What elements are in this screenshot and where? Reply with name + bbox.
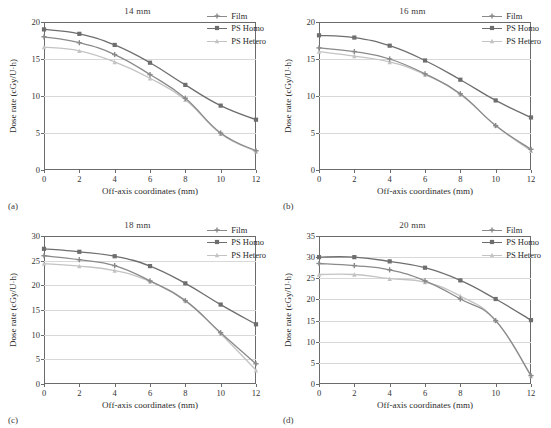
legend-swatch-icon bbox=[482, 12, 502, 21]
data-point-ps-homo bbox=[388, 259, 392, 263]
legend: FilmPS HomoPS Hetero bbox=[479, 222, 544, 263]
y-tick-label: 0 bbox=[36, 379, 40, 389]
panel-caption-label: (d) bbox=[283, 415, 294, 425]
data-point-ps-homo bbox=[388, 44, 392, 48]
x-tick-mark bbox=[256, 384, 257, 387]
legend: FilmPS HomoPS Hetero bbox=[479, 8, 544, 49]
y-tick-label: 10 bbox=[307, 91, 316, 101]
x-tick-mark bbox=[460, 384, 461, 387]
legend-item-film: Film bbox=[207, 10, 266, 22]
data-point-film bbox=[352, 263, 357, 268]
legend-item-ps-homo: PS Homo bbox=[207, 236, 266, 248]
x-tick-mark bbox=[531, 384, 532, 387]
x-tick-label: 8 bbox=[458, 388, 462, 398]
panel-20-mm: 20 mm(d)Dose rate (cGy/U·h)Off-axis coor… bbox=[275, 214, 550, 428]
legend-swatch-icon bbox=[207, 36, 227, 45]
legend-swatch-icon bbox=[207, 238, 227, 247]
legend-swatch-icon bbox=[207, 226, 227, 235]
x-tick-label: 12 bbox=[527, 388, 536, 398]
data-point-ps-homo bbox=[458, 278, 462, 282]
data-point-ps-homo bbox=[529, 318, 533, 322]
x-axis-label: Off-axis coordinates (mm) bbox=[319, 186, 531, 196]
legend-swatch-icon bbox=[482, 250, 502, 259]
legend-marker-icon bbox=[213, 226, 222, 235]
x-tick-label: 6 bbox=[423, 388, 427, 398]
legend-marker-icon bbox=[488, 226, 497, 235]
legend-label: PS Hetero bbox=[506, 249, 541, 261]
x-tick-mark bbox=[44, 384, 45, 387]
x-tick-mark bbox=[115, 170, 116, 173]
legend-swatch-icon bbox=[482, 36, 502, 45]
data-point-film bbox=[41, 253, 46, 258]
legend-item-ps-hetero: PS Hetero bbox=[482, 249, 541, 261]
y-tick-label: 5 bbox=[36, 128, 40, 138]
data-point-ps-homo bbox=[423, 58, 427, 62]
y-tick-label: 0 bbox=[36, 165, 40, 175]
data-point-film bbox=[387, 56, 392, 61]
x-tick-mark bbox=[79, 384, 80, 387]
data-point-ps-homo bbox=[219, 302, 223, 306]
y-tick-label: 0 bbox=[311, 379, 315, 389]
figure-dose-rate-panels: 14 mm(a)Dose rate (cGy/U·h)Off-axis coor… bbox=[0, 0, 551, 428]
x-tick-mark bbox=[354, 384, 355, 387]
x-tick-mark bbox=[185, 170, 186, 173]
y-tick-label: 0 bbox=[311, 165, 315, 175]
x-axis-label: Off-axis coordinates (mm) bbox=[319, 400, 531, 410]
legend-item-ps-homo: PS Homo bbox=[482, 236, 541, 248]
panel-caption-label: (c) bbox=[8, 415, 18, 425]
data-point-ps-homo bbox=[219, 104, 223, 108]
x-tick-mark bbox=[221, 384, 222, 387]
x-tick-mark bbox=[319, 384, 320, 387]
legend-marker-icon bbox=[488, 12, 497, 21]
legend-marker-icon bbox=[213, 36, 222, 45]
x-tick-label: 10 bbox=[216, 174, 225, 184]
legend-item-ps-hetero: PS Hetero bbox=[482, 35, 541, 47]
y-tick-label: 10 bbox=[307, 337, 316, 347]
legend: FilmPS HomoPS Hetero bbox=[204, 222, 269, 263]
x-tick-label: 6 bbox=[148, 388, 152, 398]
x-tick-label: 4 bbox=[388, 174, 392, 184]
x-tick-label: 12 bbox=[527, 174, 536, 184]
data-point-film bbox=[112, 52, 117, 57]
legend-swatch-icon bbox=[207, 250, 227, 259]
y-axis-label: Dose rate (cGy/U·h) bbox=[6, 22, 20, 170]
data-point-film bbox=[316, 45, 321, 50]
legend-label: Film bbox=[506, 10, 522, 22]
legend-label: PS Hetero bbox=[231, 35, 266, 47]
data-point-ps-homo bbox=[317, 255, 321, 259]
y-tick-label: 20 bbox=[307, 294, 316, 304]
x-tick-label: 8 bbox=[458, 174, 462, 184]
legend-item-ps-hetero: PS Hetero bbox=[207, 249, 266, 261]
panel-16-mm: 16 mm(b)Dose rate (cGy/U·h)Off-axis coor… bbox=[275, 0, 550, 214]
y-tick-label: 30 bbox=[307, 252, 316, 262]
legend-item-film: Film bbox=[482, 10, 541, 22]
data-point-ps-homo bbox=[77, 250, 81, 254]
y-tick-label: 15 bbox=[32, 305, 41, 315]
x-axis-label: Off-axis coordinates (mm) bbox=[44, 400, 256, 410]
x-tick-mark bbox=[150, 384, 151, 387]
y-tick-label: 30 bbox=[32, 231, 41, 241]
legend-swatch-icon bbox=[207, 24, 227, 33]
data-point-ps-homo bbox=[42, 27, 46, 31]
data-point-film bbox=[77, 257, 82, 262]
data-point-film bbox=[253, 148, 258, 153]
legend-item-film: Film bbox=[482, 224, 541, 236]
x-tick-label: 12 bbox=[252, 174, 261, 184]
legend-item-ps-hetero: PS Hetero bbox=[207, 35, 266, 47]
y-tick-label: 5 bbox=[311, 128, 315, 138]
x-tick-label: 0 bbox=[317, 388, 321, 398]
data-point-ps-homo bbox=[494, 98, 498, 102]
data-point-ps-homo bbox=[352, 255, 356, 259]
x-tick-label: 0 bbox=[317, 174, 321, 184]
x-tick-mark bbox=[390, 384, 391, 387]
y-axis-label: Dose rate (cGy/U·h) bbox=[281, 22, 295, 170]
x-tick-mark bbox=[531, 170, 532, 173]
legend-marker-icon bbox=[488, 238, 497, 247]
legend-label: PS Hetero bbox=[506, 35, 541, 47]
y-axis-label: Dose rate (cGy/U·h) bbox=[6, 236, 20, 384]
data-point-ps-homo bbox=[113, 254, 117, 258]
legend-marker-icon bbox=[488, 250, 497, 259]
x-tick-label: 0 bbox=[42, 388, 46, 398]
x-tick-label: 2 bbox=[77, 174, 81, 184]
x-tick-mark bbox=[390, 170, 391, 173]
